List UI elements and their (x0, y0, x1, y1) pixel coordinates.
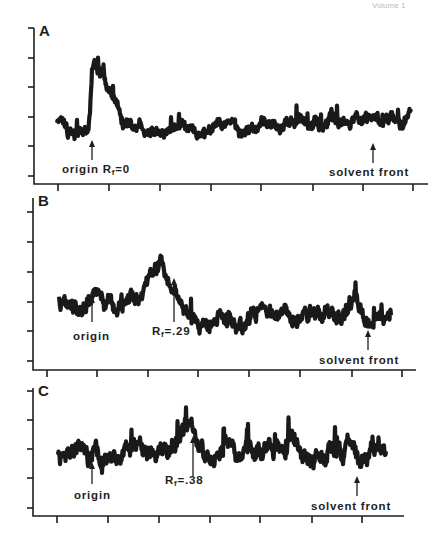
panel-c: CoriginRf=.38solvent front (27, 382, 404, 523)
annotation-label: solvent front (311, 500, 391, 512)
annotation-label: origin (74, 489, 111, 501)
panel-a: Aorigin Rf=0solvent front (28, 22, 428, 191)
arrow-up-icon (171, 278, 177, 285)
panel-label: B (38, 192, 49, 209)
arrow-up-icon (370, 143, 376, 150)
axes (34, 28, 428, 184)
annotation-solvent-front: solvent front (329, 143, 409, 178)
annotation-solvent-front: solvent front (319, 330, 399, 366)
densitometer-trace-detail (59, 256, 391, 334)
panel-label: C (38, 382, 49, 399)
arrow-up-icon (354, 476, 360, 483)
panel-label: A (39, 22, 50, 39)
panel-b: BoriginRf=.29solvent front (27, 192, 416, 377)
arrow-up-icon (89, 140, 95, 147)
annotation-label: solvent front (319, 354, 399, 366)
annotation-label: Rf=.38 (165, 474, 203, 488)
axes (33, 198, 416, 370)
page-header: Volume 1 (372, 1, 406, 10)
annotation-solvent-front: solvent front (311, 476, 391, 512)
arrow-up-icon (365, 330, 371, 337)
annotation-label: Rf=.29 (152, 325, 190, 339)
annotation-origin: origin (74, 462, 111, 501)
annotation-label: solvent front (329, 166, 409, 178)
annotation-label: origin Rf=0 (62, 163, 130, 177)
chromatogram-figure: Volume 1 Aorigin Rf=0solvent frontBorigi… (0, 0, 446, 548)
annotation-label: origin (73, 330, 110, 342)
densitometer-trace (57, 58, 411, 140)
annotation-origin-rf-0: origin Rf=0 (62, 140, 130, 177)
